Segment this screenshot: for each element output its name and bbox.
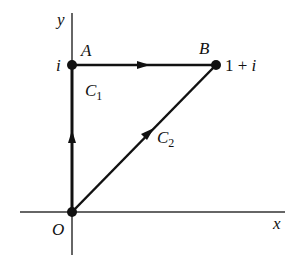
arrow-up-icon: [68, 130, 76, 143]
point-b-label: B: [199, 39, 210, 58]
path-c1-label: C1: [85, 81, 102, 103]
c2-letter: C: [157, 128, 169, 147]
point-origin: [67, 207, 77, 217]
point-b-value: 1 + i: [225, 56, 257, 75]
point-a-label: A: [80, 41, 92, 60]
y-axis-label: y: [55, 10, 65, 29]
point-origin-label: O: [52, 220, 64, 239]
point-b-value-real: 1 +: [225, 56, 252, 75]
arrow-right-icon: [137, 61, 150, 69]
c1-letter: C: [85, 81, 97, 100]
point-a: [67, 60, 77, 70]
c1-subscript: 1: [96, 89, 102, 103]
contour-diagram: y x O A i B 1 + i C1 C2: [0, 0, 298, 255]
path-c2-label: C2: [157, 128, 174, 150]
c2-subscript: 2: [168, 136, 174, 150]
point-b-value-imag: i: [252, 56, 257, 75]
x-axis-label: x: [272, 214, 281, 233]
point-b: [211, 60, 221, 70]
point-a-value: i: [56, 56, 61, 75]
